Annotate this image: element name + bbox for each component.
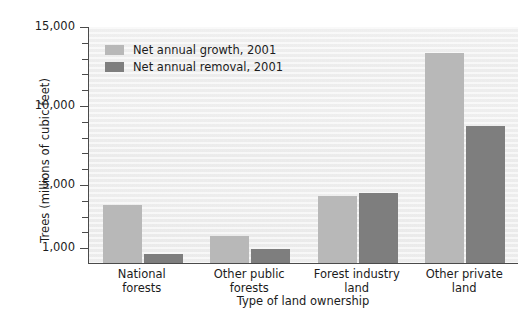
- y-axis-minor-tick: [82, 201, 89, 202]
- legend-swatch-removal-icon: [105, 62, 124, 72]
- chart-legend: Net annual growth, 2001 Net annual remov…: [105, 41, 283, 75]
- bar-growth: [318, 196, 357, 263]
- legend-label-growth: Net annual growth, 2001: [133, 43, 276, 57]
- bar-growth: [103, 205, 142, 263]
- bar-removal: [251, 249, 290, 263]
- y-axis-major-tick: [80, 185, 89, 186]
- y-axis-minor-tick: [82, 122, 89, 123]
- y-axis-title: Trees (millions of cubic feet): [34, 0, 74, 321]
- y-axis-minor-tick: [82, 90, 89, 91]
- category-label-line: Other public: [196, 268, 304, 282]
- x-axis-category-label: Other privateland: [411, 268, 519, 295]
- legend-swatch-growth-icon: [105, 45, 124, 55]
- y-axis-minor-tick: [82, 74, 89, 75]
- y-axis-minor-tick: [82, 153, 89, 154]
- y-axis-tick-label: 5,000: [11, 177, 75, 191]
- y-axis-tick-label: 15,000: [11, 19, 75, 33]
- y-axis-minor-tick: [82, 169, 89, 170]
- category-label-line: land: [303, 282, 411, 296]
- legend-item-removal: Net annual removal, 2001: [105, 58, 283, 75]
- y-axis-minor-tick: [82, 217, 89, 218]
- bar-growth: [210, 236, 249, 263]
- y-axis-major-tick: [80, 106, 89, 107]
- category-label-line: Forest industry: [303, 268, 411, 282]
- y-axis-tick-label: 10,000: [11, 98, 75, 112]
- x-axis-category-label: Forest industryland: [303, 268, 411, 295]
- x-axis-category-label: Other publicforests: [196, 268, 304, 295]
- bar-group: [304, 27, 412, 263]
- x-axis-title: Type of land ownership: [88, 294, 518, 308]
- category-label-line: forests: [196, 282, 304, 296]
- bar-growth: [425, 53, 464, 263]
- x-axis-category-label: Nationalforests: [88, 268, 196, 295]
- bar-removal: [466, 126, 505, 263]
- y-axis-minor-tick: [82, 43, 89, 44]
- category-label-line: land: [411, 282, 519, 296]
- y-axis-minor-tick: [82, 138, 89, 139]
- category-label-line: forests: [88, 282, 196, 296]
- y-axis-minor-tick: [82, 59, 89, 60]
- category-label-line: National: [88, 268, 196, 282]
- category-label-line: Other private: [411, 268, 519, 282]
- bar-removal: [359, 193, 398, 263]
- legend-label-removal: Net annual removal, 2001: [133, 60, 283, 74]
- y-axis-tick-label: 1,000: [11, 240, 75, 254]
- bar-removal: [144, 254, 183, 263]
- y-axis-major-tick: [80, 27, 89, 28]
- legend-item-growth: Net annual growth, 2001: [105, 41, 283, 58]
- y-axis-minor-tick: [82, 232, 89, 233]
- bar-group: [412, 27, 520, 263]
- y-axis-major-tick: [80, 248, 89, 249]
- bar-chart-figure: Trees (millions of cubic feet) Type of l…: [0, 0, 526, 321]
